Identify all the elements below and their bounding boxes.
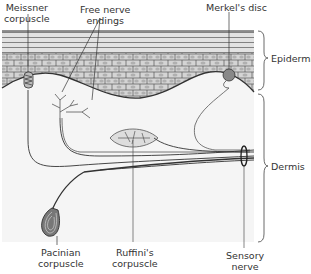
label-merkel-disc: Merkel's disc: [206, 2, 267, 13]
label-epidermis: Epidermis: [271, 53, 311, 64]
epidermis-brace: [258, 31, 268, 90]
dermis-brace: [258, 94, 268, 242]
label-dermis: Dermis: [271, 161, 305, 172]
label-pacinian-corpuscle: Pacinian corpuscle: [38, 247, 84, 269]
label-sensory-nerve: Sensory nerve: [226, 250, 264, 272]
label-ruffini-corpuscle: Ruffini's corpuscle: [112, 247, 158, 269]
stratum-corneum: [2, 31, 254, 53]
label-meissner-corpuscle: Meissner corpuscle: [4, 2, 50, 24]
label-free-nerve-endings: Free nerve endings: [80, 4, 130, 26]
skin-diagram: [0, 0, 311, 274]
